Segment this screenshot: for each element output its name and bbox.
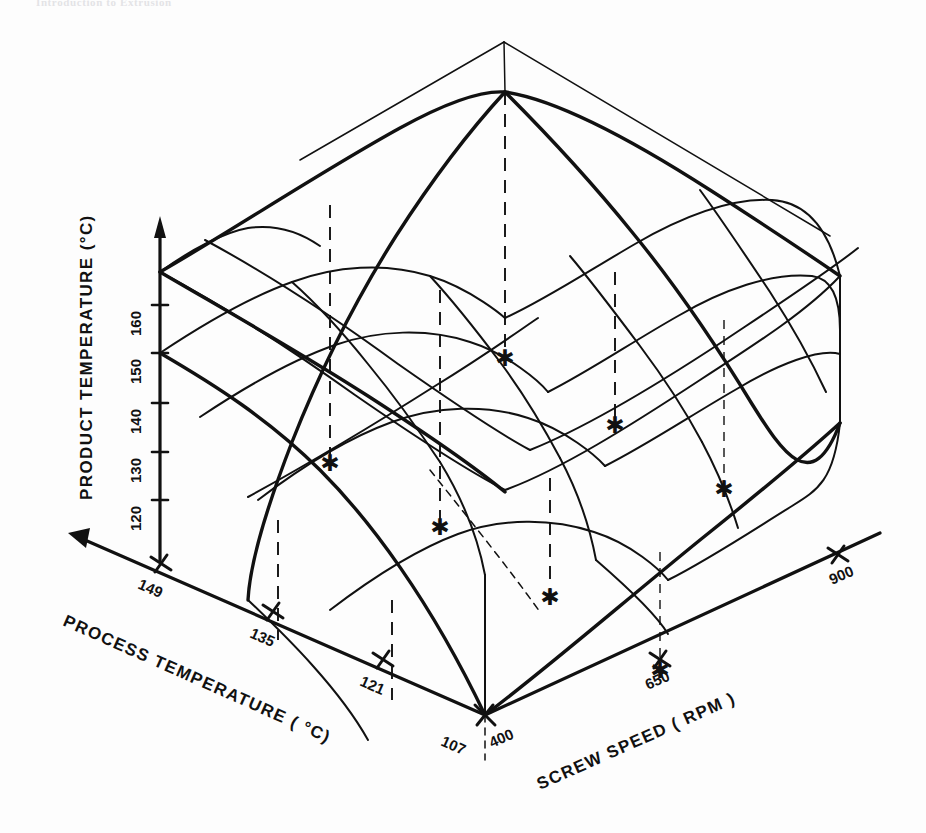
y-ticklabel-400: 400 — [486, 725, 516, 751]
data-markers: ✱ ✱ ✱ ✱ ✱ ✱ ✱ — [320, 345, 733, 683]
data-marker-5: ✱ — [605, 412, 624, 438]
surface-mesh — [160, 42, 858, 760]
y-axis-ticks — [650, 546, 848, 668]
x-axis-arrowhead — [68, 528, 90, 548]
mesh-col-a — [160, 227, 320, 272]
surface-back-left-edge — [160, 92, 505, 272]
figure-container: Introduction to Extrusion — [0, 0, 926, 833]
mesh-diag-2b — [560, 458, 596, 560]
y-axis-line — [485, 533, 880, 715]
page-header-text: Introduction to Extrusion — [36, 0, 172, 8]
y-axis-title: SCREW SPEED ( RPM ) — [534, 689, 739, 794]
mesh-strand-3r — [605, 353, 840, 466]
dome-crest-ridge-right — [505, 92, 840, 463]
z-ticklabel-140: 140 — [127, 409, 144, 434]
x-ticklabel-121: 121 — [358, 672, 388, 698]
data-marker-4: ✱ — [540, 584, 559, 610]
z-axis-arrowhead — [154, 216, 166, 238]
axis-titles: PRODUCT TEMPERATURE (°C) PROCESS TEMPERA… — [60, 214, 738, 793]
surface-back-right-edge — [505, 92, 840, 276]
x-ticklabel-149: 149 — [136, 575, 166, 601]
mesh-strand-1 — [160, 267, 505, 353]
mesh-strand-1r — [505, 200, 840, 318]
axes — [68, 216, 880, 725]
x-ticklabel-107: 107 — [439, 732, 469, 758]
x-axis-line — [78, 537, 485, 715]
horizon-left-line — [300, 42, 504, 160]
x-axis-ticks — [151, 555, 495, 725]
mesh-diag-4 — [700, 190, 826, 392]
mesh-diag-3 — [570, 256, 702, 442]
x-ticklabel-135: 135 — [248, 624, 278, 650]
z-ticklabel-150: 150 — [127, 359, 144, 384]
apex-vertical-line — [504, 42, 505, 92]
mesh-strand-3 — [258, 409, 605, 500]
data-marker-3: ✱ — [495, 345, 514, 371]
z-axis-title: PRODUCT TEMPERATURE (°C) — [77, 214, 96, 500]
surface-plot-svg: ✱ ✱ ✱ ✱ ✱ ✱ ✱ — [0, 0, 926, 833]
data-drop-lines — [278, 92, 724, 700]
data-marker-2: ✱ — [430, 514, 449, 540]
z-ticklabel-120: 120 — [127, 506, 144, 531]
data-marker-1: ✱ — [320, 450, 339, 476]
mesh-row-1b — [505, 276, 840, 490]
y-ticklabel-900: 900 — [826, 562, 856, 588]
data-marker-6: ✱ — [714, 476, 733, 502]
z-ticklabel-160: 160 — [127, 311, 144, 336]
z-ticklabel-130: 130 — [127, 458, 144, 483]
mesh-strand-4 — [330, 522, 668, 610]
mesh-diag-1 — [292, 282, 440, 462]
